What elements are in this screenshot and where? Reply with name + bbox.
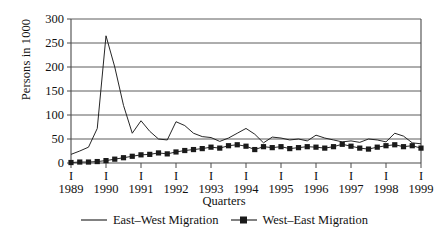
x-tick-group: I1989I1990I1991I1992I1993I1994I1995I1996… [59, 163, 434, 196]
y-tick-label: 0 [58, 156, 64, 170]
data-point-marker [270, 145, 275, 150]
legend-label-west-east: West–East Migration [263, 214, 369, 227]
x-axis-title: Quarters [0, 194, 448, 209]
data-point-marker [305, 144, 310, 149]
data-point-marker [86, 159, 91, 164]
data-point-marker [340, 142, 345, 147]
x-quarter-marker: I [314, 169, 318, 183]
migration-chart-figure: Persons in 1000 050100150200250300 I1989… [0, 0, 448, 236]
data-point-marker [200, 146, 205, 151]
data-point-marker [375, 145, 380, 150]
data-point-marker [191, 147, 196, 152]
data-point-marker [392, 142, 397, 147]
y-tick-label: 300 [45, 12, 64, 26]
y-tick-label: 100 [45, 108, 64, 122]
data-point-marker [95, 159, 100, 164]
x-quarter-marker: I [174, 169, 178, 183]
data-point-marker [243, 144, 248, 149]
data-point-marker [156, 150, 161, 155]
data-point-marker [348, 144, 353, 149]
gridlines-group [71, 19, 421, 163]
legend-item-west-east: West–East Migration [230, 214, 369, 227]
data-point-marker [322, 146, 327, 151]
data-point-marker [252, 147, 257, 152]
series-line-east-west [71, 36, 421, 155]
data-point-marker [182, 148, 187, 153]
data-point-marker [147, 152, 152, 157]
data-point-marker [331, 144, 336, 149]
data-point-marker [418, 146, 423, 151]
data-point-marker [165, 151, 170, 156]
data-point-marker [77, 159, 82, 164]
data-point-marker [357, 146, 362, 151]
data-point-marker [138, 152, 143, 157]
data-point-marker [296, 145, 301, 150]
x-quarter-marker: I [209, 169, 213, 183]
data-point-marker [173, 149, 178, 154]
data-point-marker [103, 158, 108, 163]
data-point-marker [261, 144, 266, 149]
data-point-marker [235, 142, 240, 147]
data-point-marker [366, 146, 371, 151]
legend-line-square-icon [230, 214, 258, 226]
data-point-marker [226, 143, 231, 148]
x-quarter-marker: I [104, 169, 108, 183]
data-point-marker [278, 144, 283, 149]
data-point-marker [68, 160, 73, 165]
data-point-marker [130, 154, 135, 159]
x-quarter-marker: I [279, 169, 283, 183]
data-point-marker [112, 157, 117, 162]
data-point-marker [217, 146, 222, 151]
x-quarter-marker: I [244, 169, 248, 183]
y-tick-label: 200 [45, 60, 64, 74]
legend-item-east-west: East–West Migration [80, 214, 219, 227]
x-quarter-marker: I [419, 169, 423, 183]
chart-legend: East–West Migration West–East Migration [0, 214, 448, 227]
legend-label-east-west: East–West Migration [113, 214, 219, 227]
x-quarter-marker: I [384, 169, 388, 183]
data-point-marker [313, 145, 318, 150]
legend-line-icon [80, 214, 108, 226]
data-point-marker [121, 155, 126, 160]
x-quarter-marker: I [349, 169, 353, 183]
x-quarter-marker: I [139, 169, 143, 183]
data-point-marker [208, 145, 213, 150]
data-point-marker [287, 146, 292, 151]
data-point-marker [401, 144, 406, 149]
y-tick-label: 50 [52, 132, 65, 146]
y-tick-label: 150 [45, 84, 64, 98]
y-tick-group: 050100150200250300 [45, 12, 71, 170]
data-point-marker [410, 143, 415, 148]
x-quarter-marker: I [69, 169, 73, 183]
data-point-marker [383, 143, 388, 148]
y-tick-label: 250 [45, 36, 64, 50]
data-series-group [68, 36, 423, 165]
